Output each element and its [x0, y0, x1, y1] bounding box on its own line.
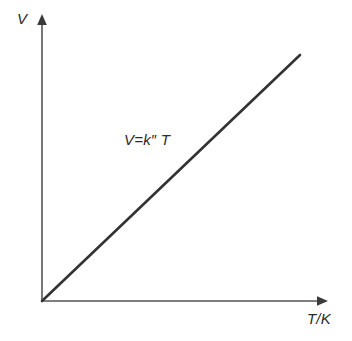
x-axis-label: T/K — [307, 310, 331, 327]
y-axis-label: V — [17, 10, 27, 27]
equation-annotation: V=k″ T — [124, 131, 170, 148]
chart-figure: V T/K V=k″ T — [0, 0, 352, 341]
arrow-right-icon — [317, 296, 328, 306]
plot-area — [0, 0, 352, 341]
arrow-up-icon — [37, 14, 47, 25]
data-line-series-0 — [42, 55, 300, 301]
